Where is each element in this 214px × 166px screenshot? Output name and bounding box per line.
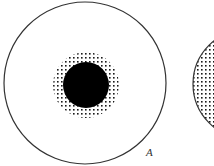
panel-a-label: A (146, 146, 153, 158)
panel-b (190, 26, 214, 142)
figure-canvas (0, 0, 214, 166)
panel-a-solid-core (63, 62, 109, 108)
panel-a (4, 2, 166, 164)
